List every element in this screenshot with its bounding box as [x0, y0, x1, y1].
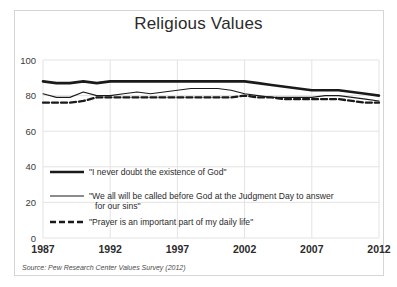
x-tick-label: 2007 [300, 243, 324, 255]
axis-tick-labels-x: 198719921997200220072012 [31, 243, 391, 255]
legend-label: "Prayer is an important part of my daily… [89, 217, 253, 227]
data-series-group [43, 81, 379, 102]
y-tick-label: 100 [20, 55, 36, 66]
legend: "I never doubt the existence of God""We … [50, 167, 334, 227]
chart-screenshot: Religious Values 020406080100 1987199219… [0, 0, 397, 287]
x-tick-label: 1992 [99, 243, 123, 255]
x-tick-label: 1987 [31, 243, 55, 255]
x-tick-label: 2012 [367, 243, 391, 255]
x-tick-label: 2002 [233, 243, 257, 255]
legend-label: "We all will be called before God at the… [89, 191, 334, 201]
y-tick-label: 60 [25, 126, 36, 137]
line-chart-plot: 020406080100 198719921997200220072012 "I… [0, 0, 397, 287]
y-tick-label: 80 [25, 90, 36, 101]
axis-tick-labels-y: 020406080100 [20, 55, 36, 244]
y-tick-label: 40 [25, 161, 36, 172]
source-note: Source: Pew Research Center Values Surve… [22, 264, 186, 271]
series-line [43, 96, 379, 103]
legend-label-continuation: for our sins" [95, 201, 141, 211]
y-tick-label: 0 [31, 233, 36, 244]
grid-lines [43, 60, 379, 238]
x-tick-label: 1997 [166, 243, 190, 255]
y-tick-label: 20 [25, 197, 36, 208]
legend-label: "I never doubt the existence of God" [89, 167, 226, 177]
